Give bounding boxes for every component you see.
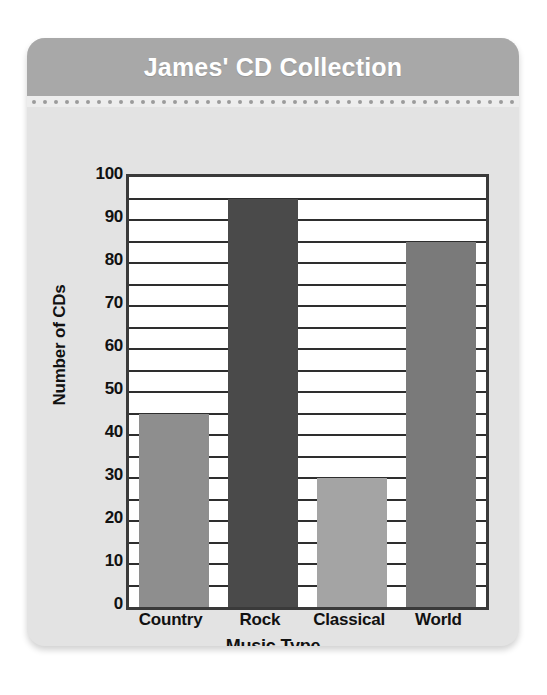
y-axis-tick-label: 70 xyxy=(71,293,123,313)
bar xyxy=(139,414,209,608)
y-axis-tick-label: 20 xyxy=(71,508,123,528)
divider-dot xyxy=(499,100,503,104)
divider-dot xyxy=(162,100,166,104)
y-axis-tick-label: 80 xyxy=(71,250,123,270)
divider-dot xyxy=(271,100,275,104)
chart-title: James' CD Collection xyxy=(144,53,403,82)
y-axis-tick-label: 60 xyxy=(71,336,123,356)
divider-dot xyxy=(434,100,438,104)
divider-dot xyxy=(206,100,210,104)
chart-card: James' CD Collection Number of CDs 10090… xyxy=(27,38,519,646)
divider-dot xyxy=(445,100,449,104)
divider-dot xyxy=(488,100,492,104)
divider-dot xyxy=(151,100,155,104)
divider-dot xyxy=(184,100,188,104)
divider-dot xyxy=(466,100,470,104)
divider-dot xyxy=(217,100,221,104)
divider-dot xyxy=(401,100,405,104)
divider-dot xyxy=(119,100,123,104)
divider-dot xyxy=(249,100,253,104)
divider-dot xyxy=(54,100,58,104)
divider-dot xyxy=(227,100,231,104)
x-axis-tick-label: Classical xyxy=(313,610,385,630)
divider-dot xyxy=(238,100,242,104)
divider-dot xyxy=(86,100,90,104)
divider-dot xyxy=(108,100,112,104)
chart-page: James' CD Collection Number of CDs 10090… xyxy=(0,0,547,695)
divider-dot xyxy=(282,100,286,104)
divider-dot xyxy=(130,100,134,104)
divider-dot xyxy=(325,100,329,104)
divider-dot xyxy=(336,100,340,104)
y-axis-tick-label: 100 xyxy=(71,164,123,184)
divider-dot xyxy=(195,100,199,104)
divider-dot xyxy=(65,100,69,104)
y-axis-title: Number of CDs xyxy=(50,255,70,435)
bar xyxy=(406,242,476,608)
divider-dot xyxy=(412,100,416,104)
x-axis-tick-label: Rock xyxy=(239,610,280,630)
divider-dot xyxy=(380,100,384,104)
x-axis-title: Music Type xyxy=(27,636,519,646)
bar xyxy=(317,478,387,607)
y-axis-tick-label: 10 xyxy=(71,551,123,571)
divider-dot xyxy=(303,100,307,104)
divider-dot xyxy=(456,100,460,104)
y-axis-tick-label: 90 xyxy=(71,207,123,227)
divider-dot xyxy=(347,100,351,104)
divider-dot xyxy=(369,100,373,104)
bar xyxy=(228,199,298,608)
divider-dot xyxy=(510,100,514,104)
divider-dot xyxy=(260,100,264,104)
y-axis-tick-label: 30 xyxy=(71,465,123,485)
divider-dot xyxy=(390,100,394,104)
divider-dot xyxy=(97,100,101,104)
divider-dot xyxy=(141,100,145,104)
chart-area: Number of CDs 1009080706050403020100 Cou… xyxy=(27,107,519,646)
dotted-divider xyxy=(27,96,519,107)
divider-dot xyxy=(477,100,481,104)
divider-dot xyxy=(43,100,47,104)
divider-dot xyxy=(423,100,427,104)
divider-dot xyxy=(32,100,36,104)
divider-dot xyxy=(314,100,318,104)
divider-dot xyxy=(75,100,79,104)
y-axis-tick-label: 40 xyxy=(71,422,123,442)
x-axis-tick-label: Country xyxy=(139,610,203,630)
plot-area xyxy=(126,174,489,610)
divider-dot xyxy=(173,100,177,104)
x-axis-tick-label: World xyxy=(415,610,462,630)
x-axis-tick-labels: CountryRockClassicalWorld xyxy=(126,610,483,638)
y-axis-tick-labels: 1009080706050403020100 xyxy=(71,107,123,603)
divider-dot xyxy=(293,100,297,104)
card-header: James' CD Collection xyxy=(27,38,519,96)
bars-group xyxy=(129,177,486,607)
y-axis-tick-label: 50 xyxy=(71,379,123,399)
divider-dot xyxy=(358,100,362,104)
y-axis-tick-label: 0 xyxy=(71,594,123,614)
